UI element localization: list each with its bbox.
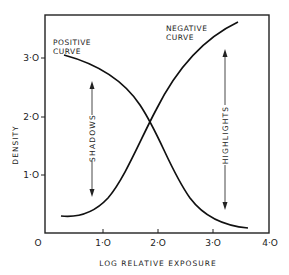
- arrow-down-icon: [90, 189, 95, 197]
- negative-curve-label: NEGATIVE CURVE: [166, 24, 207, 42]
- shadows-range-arrow: SHADOWS: [85, 81, 99, 197]
- y-axis-tick-labels: 3·O 2·O 1·O: [23, 53, 39, 180]
- arrow-up-icon: [90, 81, 95, 89]
- svg-text:CURVE: CURVE: [53, 47, 81, 56]
- svg-text:4·O: 4·O: [262, 238, 278, 248]
- positive-curve-label: POSITIVE CURVE: [53, 38, 91, 56]
- svg-text:POSITIVE: POSITIVE: [53, 38, 91, 47]
- svg-text:1·O: 1·O: [23, 170, 39, 180]
- x-axis-tick-labels: O 1·O 2·O 3·O 4·O: [34, 238, 277, 248]
- svg-text:SHADOWS: SHADOWS: [88, 114, 97, 162]
- arrow-up-icon: [223, 49, 228, 57]
- svg-text:1·O: 1·O: [95, 238, 111, 248]
- svg-text:HIGHLIGHTS: HIGHLIGHTS: [221, 106, 230, 165]
- svg-text:2·O: 2·O: [150, 238, 166, 248]
- x-axis-label: LOG RELATIVE EXPOSURE: [99, 259, 216, 268]
- y-axis-label: DENSITY: [11, 125, 20, 164]
- svg-text:2·O: 2·O: [23, 112, 39, 122]
- svg-text:NEGATIVE: NEGATIVE: [166, 24, 207, 33]
- svg-text:3·O: 3·O: [23, 53, 39, 63]
- svg-text:3·O: 3·O: [205, 238, 221, 248]
- highlights-range-arrow: HIGHLIGHTS: [218, 49, 232, 210]
- svg-text:O: O: [34, 238, 41, 248]
- characteristic-curve-chart: 3·O 2·O 1·O O 1·O 2·O 3·O 4·O LOG RELATI…: [0, 0, 289, 275]
- svg-text:CURVE: CURVE: [166, 33, 194, 42]
- arrow-down-icon: [223, 202, 228, 210]
